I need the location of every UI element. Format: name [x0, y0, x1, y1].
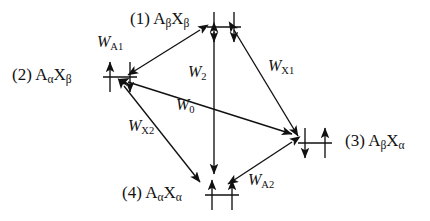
transition-arrow-layer [0, 0, 430, 221]
transition-arrow [234, 30, 298, 136]
rate-subscript: X2 [141, 125, 154, 136]
rate-subscript: X1 [281, 65, 294, 76]
state-subscript: α [47, 73, 53, 86]
state-subscript: β [165, 17, 171, 30]
rate-subscript: 0 [189, 104, 194, 115]
state-subscript: α [399, 139, 405, 152]
spin-transition-diagram: (1) AβXβ (2) AαXβ (3) AβXα (4) AαXα WA1 … [0, 0, 430, 221]
spin-symbol-state-3 [298, 128, 332, 158]
state-4-text: (4) AαXα [122, 183, 182, 202]
state-label-1: (1) AβXβ [130, 10, 189, 30]
spin-symbol-state-2 [103, 62, 137, 92]
rate-label-W0: W0 [176, 97, 195, 116]
state-label-4: (4) AαXα [122, 184, 182, 204]
state-subscript: β [66, 73, 72, 86]
state-subscript: β [184, 17, 190, 30]
rate-subscript: 2 [201, 71, 206, 82]
rate-label-W2: W2 [188, 64, 207, 83]
spin-symbol-state-4 [205, 180, 239, 210]
state-3-text: (3) AβXα [345, 131, 405, 150]
rate-label-WX1: WX1 [268, 58, 294, 77]
spin-symbol-state-1 [207, 12, 241, 42]
state-subscript: α [176, 191, 182, 204]
state-label-3: (3) AβXα [345, 132, 405, 152]
rate-subscript: A1 [110, 41, 123, 52]
rate-label-WA2: WA2 [248, 172, 274, 191]
state-subscript: α [157, 191, 163, 204]
rate-label-WA1: WA1 [97, 34, 123, 53]
state-subscript: β [380, 139, 386, 152]
rate-subscript: A2 [261, 179, 274, 190]
state-label-2: (2) AαXβ [12, 66, 72, 86]
state-1-text: (1) AβXβ [130, 9, 189, 28]
state-2-text: (2) AαXβ [12, 65, 72, 84]
rate-label-WX2: WX2 [128, 118, 154, 137]
